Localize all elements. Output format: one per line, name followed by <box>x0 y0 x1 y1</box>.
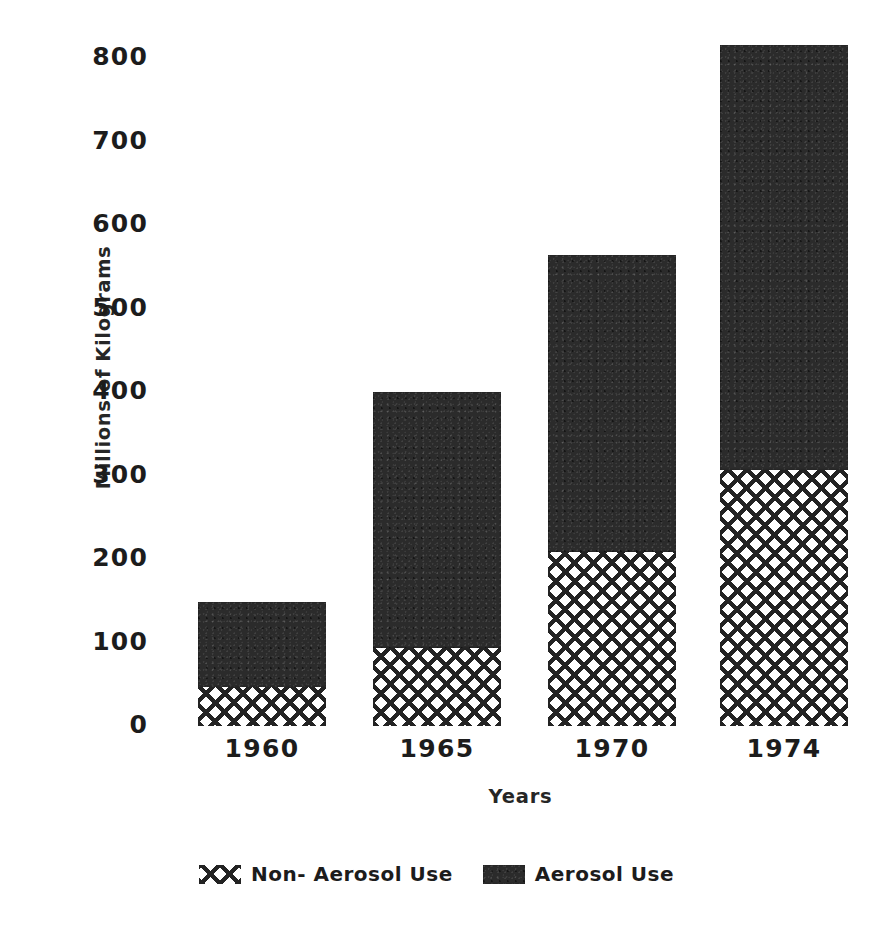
bar-1974-non-aerosol-segment <box>720 470 848 726</box>
y-tick-0: 0 <box>28 712 148 737</box>
legend-label-aerosol: Aerosol Use <box>535 862 674 886</box>
x-tick-1960: 1960 <box>198 736 326 761</box>
y-tick-200: 200 <box>28 545 148 570</box>
legend-label-non-aerosol: Non- Aerosol Use <box>251 862 453 886</box>
bar-1974[interactable] <box>720 45 848 726</box>
y-axis-tick-labels: 800 700 600 500 400 300 200 100 0 <box>28 0 148 944</box>
bar-1965-non-aerosol-segment <box>373 648 501 726</box>
bar-1970-non-aerosol-segment <box>548 552 676 726</box>
x-tick-1970: 1970 <box>548 736 676 761</box>
chart-figure: Millions of Kilograms 800 700 600 500 40… <box>0 0 873 944</box>
bar-1965-aerosol-segment <box>373 392 501 648</box>
solid-swatch-icon <box>483 865 525 884</box>
x-axis-title: Years <box>168 785 873 808</box>
y-tick-600: 600 <box>28 211 148 236</box>
y-tick-100: 100 <box>28 629 148 654</box>
x-tick-1965: 1965 <box>373 736 501 761</box>
y-tick-300: 300 <box>28 462 148 487</box>
bar-1974-aerosol-segment <box>720 45 848 470</box>
legend-entry-non-aerosol[interactable]: Non- Aerosol Use <box>199 862 453 886</box>
bar-1970[interactable] <box>548 255 676 726</box>
bar-1960-non-aerosol-segment <box>198 687 326 726</box>
x-tick-1974: 1974 <box>720 736 848 761</box>
chart-legend: Non- Aerosol Use Aerosol Use <box>0 862 873 886</box>
y-tick-700: 700 <box>28 128 148 153</box>
y-tick-400: 400 <box>28 378 148 403</box>
bar-1960-aerosol-segment <box>198 602 326 687</box>
bar-1960[interactable] <box>198 602 326 726</box>
bar-1965[interactable] <box>373 392 501 726</box>
y-tick-500: 500 <box>28 295 148 320</box>
plot-area: 1960 1965 1970 1974 Years <box>168 0 873 944</box>
crosshatch-swatch-icon <box>199 865 241 884</box>
legend-entry-aerosol[interactable]: Aerosol Use <box>483 862 674 886</box>
y-tick-800: 800 <box>28 44 148 69</box>
bar-1970-aerosol-segment <box>548 255 676 552</box>
